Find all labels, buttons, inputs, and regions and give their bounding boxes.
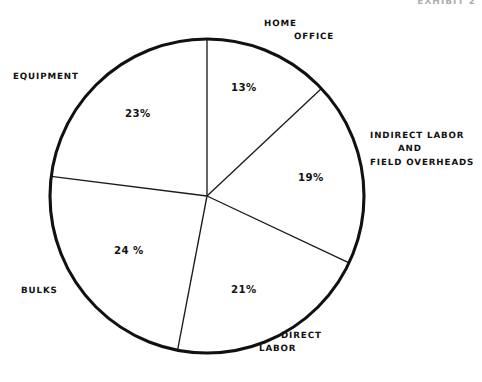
slice-value-home-office: 13% <box>231 82 257 93</box>
slice-label-line: DIRECT <box>281 331 322 341</box>
slice-label-line: BULKS <box>21 286 58 296</box>
slice-label-equipment: EQUIPMENT <box>13 71 79 84</box>
slice-label-line: EQUIPMENT <box>13 72 79 82</box>
slice-label-direct-labor: DIRECT LABOR <box>281 330 322 357</box>
slice-label-home-office: HOME OFFICE <box>264 18 334 45</box>
slice-value-bulks: 24 % <box>114 245 144 256</box>
slice-label-indirect-labor: INDIRECT LABOR AND FIELD OVERHEADS <box>370 130 474 170</box>
slice-label-line: FIELD OVERHEADS <box>370 157 474 170</box>
pie-chart-canvas <box>0 0 482 382</box>
slice-label-line: AND <box>398 143 474 156</box>
slice-value-direct-labor: 21% <box>231 284 257 295</box>
slice-label-line: OFFICE <box>294 31 334 44</box>
pie-chart-figure: EXHIBIT 2 HOME OFFICE INDIRECT LABOR AND… <box>0 0 482 382</box>
slice-label-line: LABOR <box>259 343 322 356</box>
slice-label-line: HOME <box>264 19 297 29</box>
slice-label-bulks: BULKS <box>21 285 58 298</box>
slice-value-equipment: 23% <box>125 108 151 119</box>
slice-label-line: INDIRECT LABOR <box>370 131 464 141</box>
slice-value-indirect-labor: 19% <box>298 172 324 183</box>
